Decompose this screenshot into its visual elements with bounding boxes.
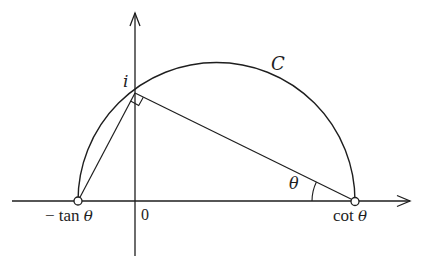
- point-neg-tan-theta: [74, 197, 82, 205]
- label-neg-tan-theta: − tan θ: [45, 207, 93, 224]
- label-neg-tan-theta-symbol: θ: [84, 207, 93, 225]
- label-angle-theta: θ: [289, 176, 299, 192]
- label-curve-C: C: [271, 55, 285, 73]
- label-i: i: [123, 73, 128, 90]
- complex-plane-diagram: [0, 0, 424, 278]
- point-cot-theta: [351, 198, 359, 206]
- angle-theta-arc: [312, 182, 316, 201]
- label-cot-theta: cot θ: [333, 207, 367, 224]
- label-cot-theta-symbol: θ: [358, 207, 367, 225]
- right-angle-marker-icon: [131, 99, 145, 102]
- segment-i-to-cot: [135, 93, 355, 201]
- segment-neg-tan-to-i: [78, 93, 135, 201]
- label-origin: 0: [141, 207, 149, 223]
- label-cot-text: cot: [333, 206, 358, 225]
- label-neg-tan-text: − tan: [45, 206, 84, 225]
